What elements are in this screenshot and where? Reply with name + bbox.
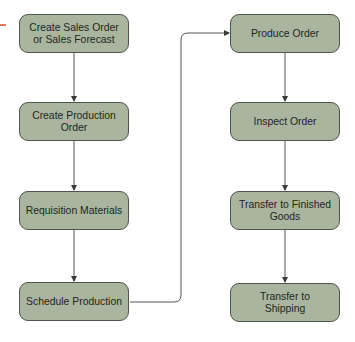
node-label-line2: Order — [32, 122, 116, 134]
node-transfer-to-finished-goods[interactable]: Transfer to Finished Goods — [230, 191, 340, 230]
node-produce-order[interactable]: Produce Order — [230, 14, 340, 53]
node-label-line2: Shipping — [260, 303, 310, 315]
connector-n4-n5 — [130, 33, 229, 302]
node-requisition-materials[interactable]: Requisition Materials — [19, 191, 129, 230]
node-label-line1: Transfer to Finished — [239, 199, 331, 211]
node-label-line2: Goods — [239, 211, 331, 223]
node-label-line1: Schedule Production — [26, 296, 122, 308]
flowchart-canvas: Create Sales Order or Sales Forecast Cre… — [0, 0, 355, 342]
node-label-line1: Create Production — [32, 110, 116, 122]
node-transfer-to-shipping[interactable]: Transfer to Shipping — [230, 283, 340, 322]
node-inspect-order[interactable]: Inspect Order — [230, 102, 340, 141]
node-schedule-production[interactable]: Schedule Production — [19, 282, 129, 321]
node-label-line1: Requisition Materials — [26, 205, 122, 217]
node-label-line1: Inspect Order — [254, 116, 317, 128]
node-label-line1: Create Sales Order — [29, 22, 119, 34]
node-label-line1: Produce Order — [251, 28, 319, 40]
node-label-line2: or Sales Forecast — [29, 34, 119, 46]
node-label-line1: Transfer to — [260, 291, 310, 303]
node-create-production-order[interactable]: Create Production Order — [19, 102, 129, 141]
node-create-sales-order[interactable]: Create Sales Order or Sales Forecast — [19, 14, 129, 53]
